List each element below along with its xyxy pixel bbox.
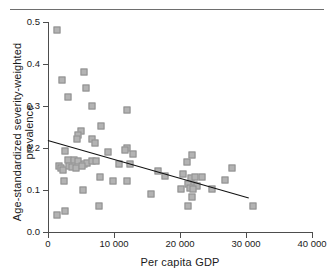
figure-scatter-gdp-prevalence: 0.00.10.20.30.40.5 010 00020 00030 00040…: [0, 0, 334, 278]
scatter-point: [64, 157, 71, 164]
scatter-point: [74, 135, 81, 142]
scatter-point: [147, 190, 154, 197]
x-axis-title: Per capita GDP: [48, 256, 312, 268]
scatter-point: [53, 211, 60, 218]
x-tick-label: 30 000: [231, 239, 260, 249]
scatter-point: [78, 127, 85, 134]
scatter-point: [92, 158, 99, 165]
scatter-point: [184, 159, 191, 166]
trend-line-layer: [0, 0, 334, 278]
y-tick-mark: [43, 106, 48, 107]
scatter-point: [97, 173, 104, 180]
scatter-point: [79, 187, 86, 194]
scatter-point: [123, 106, 130, 113]
scatter-point: [198, 173, 205, 180]
scatter-point: [66, 162, 73, 169]
scatter-point: [88, 158, 95, 165]
scatter-point: [55, 163, 62, 170]
scatter-point: [57, 165, 64, 172]
y-tick-mark: [43, 190, 48, 191]
scatter-point: [124, 144, 131, 151]
scatter-point: [83, 160, 90, 167]
header-rule: [10, 9, 324, 10]
scatter-point: [126, 160, 133, 167]
scatter-point: [194, 182, 201, 189]
scatter-point: [91, 139, 98, 146]
scatter-point: [180, 171, 187, 178]
scatter-point: [154, 167, 161, 174]
scatter-point: [60, 166, 67, 173]
scatter-point: [78, 162, 85, 169]
scatter-point: [74, 131, 81, 138]
y-tick-mark: [43, 64, 48, 65]
scatter-point: [130, 150, 137, 157]
scatter-point: [53, 26, 60, 33]
scatter-point: [80, 68, 87, 75]
scatter-point: [68, 164, 75, 171]
x-tick-label: 20 000: [165, 239, 194, 249]
scatter-point: [81, 160, 88, 167]
y-tick-mark: [43, 148, 48, 149]
trend-line: [48, 140, 249, 198]
scatter-point: [190, 182, 197, 189]
scatter-point: [71, 156, 78, 163]
x-tick-label: 10 000: [99, 239, 128, 249]
scatter-point: [82, 85, 89, 92]
scatter-point: [62, 148, 69, 155]
scatter-point: [250, 202, 257, 209]
scatter-point: [161, 172, 168, 179]
scatter-point: [97, 123, 104, 130]
scatter-point: [105, 148, 112, 155]
scatter-point: [208, 186, 215, 193]
scatter-point: [72, 165, 79, 172]
y-axis-line: [48, 22, 49, 233]
scatter-point: [192, 173, 199, 180]
y-axis-title: Age-standardized severity-weighted preva…: [11, 25, 35, 239]
scatter-point: [178, 185, 185, 192]
scatter-point: [229, 164, 236, 171]
x-tick-label: 40 000: [297, 239, 326, 249]
scatter-point: [110, 178, 117, 185]
scatter-point: [60, 178, 67, 185]
scatter-point: [64, 93, 71, 100]
scatter-point: [190, 186, 197, 193]
scatter-point: [89, 136, 96, 143]
scatter-point: [187, 175, 194, 182]
scatter-points-layer: [0, 0, 334, 278]
scatter-point: [184, 202, 191, 209]
scatter-point: [221, 177, 228, 184]
scatter-point: [74, 158, 81, 165]
cropped-caption-text: [10, 0, 324, 7]
scatter-point: [88, 102, 95, 109]
scatter-point: [188, 152, 195, 159]
scatter-point: [186, 184, 193, 191]
scatter-point: [188, 193, 195, 200]
scatter-point: [58, 76, 65, 83]
scatter-point: [116, 161, 123, 168]
scatter-point: [123, 178, 130, 185]
scatter-point: [62, 207, 69, 214]
scatter-point: [184, 181, 191, 188]
x-tick-label: 0: [45, 239, 50, 249]
y-tick-mark: [43, 22, 48, 23]
scatter-point: [96, 202, 103, 209]
scatter-point: [122, 146, 129, 153]
